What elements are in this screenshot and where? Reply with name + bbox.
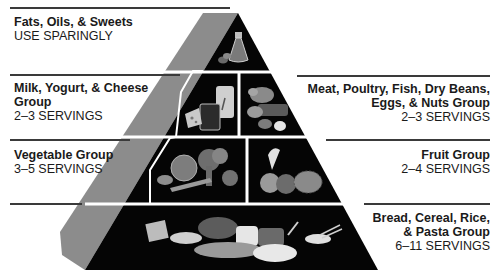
group-title-line2: Eggs, & Nuts Group xyxy=(308,96,490,110)
servings-text: 2–3 SERVINGS xyxy=(308,110,490,124)
servings-text: 3–5 SERVINGS xyxy=(14,162,113,176)
label-fats-oils-sweets: Fats, Oils, & Sweets USE SPARINGLY xyxy=(14,15,133,43)
label-milk-yogurt-cheese: Milk, Yogurt, & Cheese Group 2–3 SERVING… xyxy=(14,81,148,123)
group-title-line2: Group xyxy=(14,95,148,109)
group-title-line1: Bread, Cereal, Rice, xyxy=(373,211,490,225)
rule-right-2 xyxy=(326,139,490,141)
rule-left-1 xyxy=(10,7,230,9)
label-fruit-group: Fruit Group 2–4 SERVINGS xyxy=(401,148,490,176)
label-bread-cereal-rice-pasta: Bread, Cereal, Rice, & Pasta Group 6–11 … xyxy=(373,211,490,253)
rule-left-2 xyxy=(10,74,180,76)
group-title: Fats, Oils, & Sweets xyxy=(14,15,133,29)
group-title: Vegetable Group xyxy=(14,148,113,162)
servings-text: 2–3 SERVINGS xyxy=(14,109,148,123)
label-meat-poultry-fish: Meat, Poultry, Fish, Dry Beans, Eggs, & … xyxy=(308,82,490,124)
rule-right-1 xyxy=(297,75,490,77)
servings-text: USE SPARINGLY xyxy=(14,29,133,43)
rule-left-4 xyxy=(10,203,82,205)
group-title-line2: & Pasta Group xyxy=(373,225,490,239)
servings-text: 2–4 SERVINGS xyxy=(401,162,490,176)
group-title-line1: Milk, Yogurt, & Cheese xyxy=(14,81,148,95)
food-pyramid-diagram: Fats, Oils, & Sweets USE SPARINGLY Milk,… xyxy=(0,0,497,274)
rule-left-3 xyxy=(10,139,130,141)
rule-right-3 xyxy=(364,203,490,205)
label-vegetable-group: Vegetable Group 3–5 SERVINGS xyxy=(14,148,113,176)
group-title: Fruit Group xyxy=(401,148,490,162)
servings-text: 6–11 SERVINGS xyxy=(373,239,490,253)
group-title-line1: Meat, Poultry, Fish, Dry Beans, xyxy=(308,82,490,96)
